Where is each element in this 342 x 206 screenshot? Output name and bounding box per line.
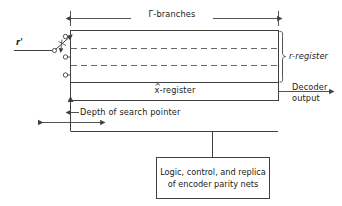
terminal-circle <box>63 55 67 59</box>
gamma-branches-label: Γ-branches <box>131 10 213 19</box>
xhat-register-label: ^ x -register <box>120 86 230 95</box>
register-input-terminals <box>63 34 70 77</box>
hat-accent-icon: ^ <box>155 83 160 92</box>
terminal-circle <box>63 34 67 38</box>
decoder-output-label-line2: output <box>292 94 320 103</box>
input-signal-label: r' <box>16 38 23 47</box>
depth-of-search-pointer-label: Depth of search pointer <box>80 108 181 117</box>
figure-canvas: Γ-branches r' r-register Decoder output … <box>0 0 342 206</box>
decoder-output-label-line1: Decoder <box>292 83 328 92</box>
control-bus <box>71 132 279 158</box>
r-register-brace <box>280 32 286 83</box>
logic-box-text-line2: of encoder parity nets <box>156 179 270 191</box>
terminal-circle <box>63 73 67 77</box>
r-register-label: r-register <box>289 52 328 61</box>
xhat-symbol: ^ x <box>155 86 160 95</box>
logic-box-text-line1: Logic, control, and replica <box>156 167 270 179</box>
xhat-register-suffix: -register <box>160 85 196 95</box>
